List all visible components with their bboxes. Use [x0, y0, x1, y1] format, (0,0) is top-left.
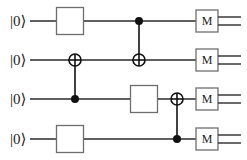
measure-q2-label: M	[202, 54, 213, 66]
gate-q4[interactable]	[57, 126, 84, 153]
gate-q1[interactable]	[57, 8, 84, 35]
cnot-control-q3-target-q2-control-dot	[71, 95, 79, 103]
measure-q4-label: M	[202, 133, 213, 145]
qubit-init-label-q4: |0⟩	[10, 132, 26, 147]
cnot-control-q4-target-q3-control-dot	[173, 135, 181, 143]
qubit-wires-group	[30, 21, 207, 139]
quantum-circuit-diagram: |0⟩|0⟩|0⟩|0⟩ MMMM	[0, 0, 247, 160]
unitary-gate-boxes-group	[57, 8, 158, 153]
cnot-gates-group	[69, 17, 183, 143]
gate-q3[interactable]	[131, 86, 158, 113]
classical-output-wires-group	[218, 17, 241, 143]
measure-q3-label: M	[202, 93, 213, 105]
measurement-boxes-group	[196, 10, 218, 150]
qubit-init-label-q2: |0⟩	[10, 53, 26, 68]
measure-q1-label: M	[202, 15, 213, 27]
qubit-init-label-q3: |0⟩	[10, 92, 26, 107]
cnot-control-q1-target-q2-control-dot	[135, 17, 143, 25]
qubit-init-label-q1: |0⟩	[10, 14, 26, 29]
